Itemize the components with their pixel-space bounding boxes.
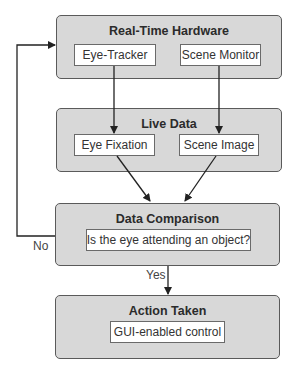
edge-label-yes: Yes: [146, 268, 166, 282]
edge-label-no: No: [33, 239, 48, 253]
group-title: Live Data: [57, 117, 281, 131]
node-scene-image: Scene Image: [179, 134, 259, 156]
node-scene-monitor: Scene Monitor: [180, 44, 261, 66]
group-title: Data Comparison: [56, 212, 279, 226]
node-attending-question: Is the eye attending an object?: [86, 229, 251, 251]
node-eye-tracker: Eye-Tracker: [74, 44, 156, 66]
group-title: Real-Time Hardware: [57, 24, 281, 38]
arrow-no-feedback-loop: [17, 45, 55, 236]
group-title: Action Taken: [56, 304, 279, 318]
node-eye-fixation: Eye Fixation: [74, 134, 155, 156]
flowchart: Real-Time Hardware Eye-Tracker Scene Mon…: [0, 0, 296, 376]
node-gui-enabled-control: GUI-enabled control: [110, 321, 225, 343]
